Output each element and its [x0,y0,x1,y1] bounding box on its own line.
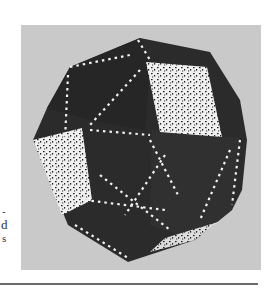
margin-text-fragment-1: - [2,206,6,217]
figure-panel [21,25,261,270]
margin-text-fragment-2: d [1,218,8,231]
polyhedron-illustration [21,25,261,270]
speckled-face-left [33,128,92,215]
margin-text-fragment-3: s [2,233,6,244]
bottom-rule [0,283,258,285]
